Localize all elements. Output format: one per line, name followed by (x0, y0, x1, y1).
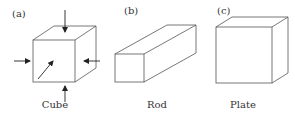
force-arrows (14, 10, 100, 102)
panel-c-caption: Plate (230, 99, 256, 110)
panel-c-tag: (c) (217, 5, 231, 16)
rod-shape (115, 25, 196, 82)
plate-shape (216, 17, 288, 83)
panel-a-cube: (a) Cube (12, 8, 100, 110)
panel-b-rod: (b) Rod (115, 5, 196, 110)
panel-b-tag: (b) (124, 5, 138, 16)
panel-a-caption: Cube (42, 99, 68, 110)
panel-a-tag: (a) (12, 8, 26, 19)
panel-b-caption: Rod (147, 99, 168, 110)
shapes-diagram: (a) Cube (b) Rod (c) P (0, 0, 295, 117)
arrow-diagonal-icon (38, 61, 53, 79)
panel-c-plate: (c) Plate (216, 5, 288, 110)
